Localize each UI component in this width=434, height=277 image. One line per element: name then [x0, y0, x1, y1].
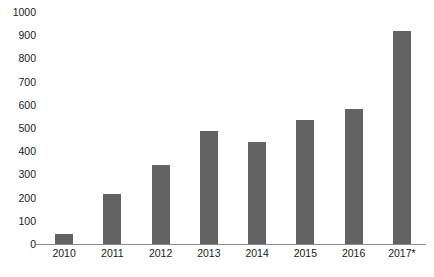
y-axis-tick-label: 900	[0, 30, 36, 40]
bar-slot	[281, 12, 329, 244]
bar-slot	[40, 12, 88, 244]
x-axis-tick-label: 2012	[149, 247, 172, 259]
y-axis-tick-label: 0	[0, 239, 36, 249]
bar-2012	[152, 165, 170, 244]
bar-series	[40, 12, 426, 244]
bar-2014	[248, 142, 266, 244]
x-axis-tick-label: 2016	[342, 247, 365, 259]
bar-2017	[393, 31, 411, 244]
bar-slot	[137, 12, 185, 244]
x-axis-tick-label: 2013	[197, 247, 220, 259]
bar-2015	[296, 120, 314, 244]
caption-strip	[0, 266, 434, 277]
x-axis: 20102011201220132014201520162017*	[40, 247, 426, 261]
y-axis-tick-label: 1000	[0, 7, 36, 17]
x-axis-baseline	[36, 244, 426, 245]
bar-slot	[88, 12, 136, 244]
bar-slot	[185, 12, 233, 244]
bar-2011	[103, 194, 121, 244]
bar-chart-figure: 01002003004005006007008009001000 2010201…	[0, 0, 434, 277]
y-axis-tick-label: 800	[0, 53, 36, 63]
y-axis-tick-label: 300	[0, 169, 36, 179]
x-axis-tick-label: 2017*	[388, 247, 415, 259]
y-axis: 01002003004005006007008009001000	[0, 12, 36, 244]
bar-2013	[200, 131, 218, 244]
bar-slot	[330, 12, 378, 244]
y-axis-tick-label: 500	[0, 123, 36, 133]
y-axis-tick-label: 700	[0, 77, 36, 87]
x-axis-tick-label: 2014	[245, 247, 268, 259]
bar-2016	[345, 109, 363, 244]
y-axis-tick-label: 200	[0, 193, 36, 203]
y-axis-tick-label: 400	[0, 146, 36, 156]
bar-slot	[378, 12, 426, 244]
bar-2010	[55, 234, 73, 244]
x-axis-tick-label: 2015	[294, 247, 317, 259]
x-axis-tick-label: 2010	[52, 247, 75, 259]
bar-slot	[233, 12, 281, 244]
y-axis-tick-label: 100	[0, 216, 36, 226]
y-axis-tick-label: 600	[0, 100, 36, 110]
x-axis-tick-label: 2011	[101, 247, 124, 259]
